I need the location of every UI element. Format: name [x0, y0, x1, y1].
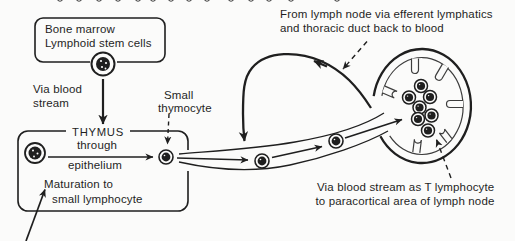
small-thymocyte-label-line2: thymocyte	[158, 102, 212, 114]
circulating-lymphocyte-icon	[255, 154, 269, 168]
lymphocyte-development-diagram: Bone marrow Lymphoid stem cells Via bloo…	[0, 0, 515, 241]
arrow-into-vessel	[177, 158, 248, 160]
lymphoid-cell-icon	[25, 143, 45, 163]
efferent-label-line1: From lymph node via efferent lymphatics	[280, 8, 493, 20]
thymus-epithelium-label: epithelium	[68, 159, 122, 171]
thymus-maturation-label-line2: small lymphocyte	[52, 193, 143, 205]
arrow-maturation-pointer	[26, 190, 45, 241]
bone-marrow-label-line2: Lymphoid stem cells	[45, 37, 152, 49]
via-blood-label-line1: Via blood	[33, 83, 82, 95]
bone-marrow-label-line1: Bone marrow	[45, 23, 116, 35]
stem-cell-icon	[92, 53, 115, 76]
thymus-maturation-label-line1: Maturation to	[44, 178, 113, 190]
blood-vessel	[179, 113, 388, 170]
paracortical-label-line2: to paracortical area of lymph node	[316, 195, 495, 207]
arrow-thymocyte-pointer	[168, 114, 170, 144]
small-thymocyte-cell-icon	[159, 150, 173, 164]
arrow-vessel-flow-2	[345, 120, 402, 139]
efferent-label-line2: and thoracic duct back to blood	[280, 22, 444, 34]
via-blood-label-line2: stream	[33, 97, 69, 109]
thymus-through-label: through	[77, 139, 117, 151]
arrow-vessel-flow-1	[272, 147, 322, 158]
t-lymphocyte-cells	[403, 80, 439, 138]
thymus-title: THYMUS	[72, 126, 124, 138]
arrow-efferent-pointer	[343, 42, 367, 70]
figure-canvas: Bone marrow Lymphoid stem cells Via bloo…	[0, 0, 515, 241]
small-thymocyte-label-line1: Small	[164, 89, 194, 101]
paracortical-label-line1: Via blood stream as T lymphocyte	[317, 181, 494, 193]
cropped-text-fragment	[57, 0, 340, 1]
circulating-lymphocyte-icon	[329, 134, 343, 148]
lymph-node	[374, 49, 471, 163]
